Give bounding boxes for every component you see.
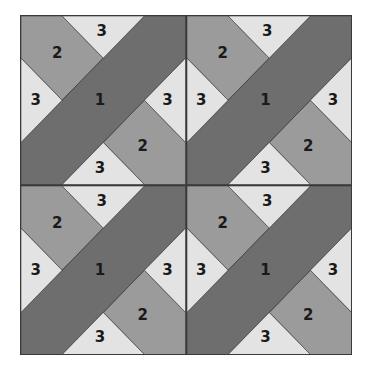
label-piece-3-right: 3: [162, 93, 172, 108]
label-piece-2-top-left: 2: [52, 215, 62, 230]
quilt-block-top-left: 2 3 3 1 3 2 3: [21, 16, 186, 185]
label-piece-1: 1: [260, 262, 270, 277]
quilt-diagram: 2 3 3 1 3 2 3 2 3 3 1 3 2 3: [20, 15, 352, 355]
label-piece-1: 1: [95, 262, 105, 277]
label-piece-3-top: 3: [96, 193, 106, 208]
label-piece-3-left: 3: [31, 93, 41, 108]
label-piece-3-right: 3: [162, 262, 172, 277]
label-piece-3-left: 3: [31, 262, 41, 277]
label-piece-2-top-left: 2: [217, 46, 227, 61]
label-piece-1: 1: [95, 93, 105, 108]
label-piece-3-right: 3: [328, 93, 338, 108]
label-piece-1: 1: [260, 93, 270, 108]
label-piece-2-top-left: 2: [217, 215, 227, 230]
label-piece-2-bottom-right: 2: [303, 138, 313, 153]
label-piece-3-bottom: 3: [95, 160, 105, 175]
label-piece-3-right: 3: [328, 262, 338, 277]
label-piece-2-top-left: 2: [52, 46, 62, 61]
label-piece-3-top: 3: [262, 193, 272, 208]
label-piece-3-bottom: 3: [260, 160, 270, 175]
label-piece-3-bottom: 3: [260, 330, 270, 345]
label-piece-3-left: 3: [196, 262, 206, 277]
quilt-block-bottom-right: 2 3 3 1 3 2 3: [187, 186, 352, 355]
label-piece-2-bottom-right: 2: [138, 308, 148, 323]
label-piece-3-left: 3: [196, 93, 206, 108]
label-piece-3-top: 3: [262, 24, 272, 39]
quilt-block-bottom-left: 2 3 3 1 3 2 3: [21, 186, 186, 355]
label-piece-3-top: 3: [96, 24, 106, 39]
label-piece-3-bottom: 3: [95, 330, 105, 345]
quilt-block-top-right: 2 3 3 1 3 2 3: [187, 16, 352, 185]
label-piece-2-bottom-right: 2: [303, 308, 313, 323]
label-piece-2-bottom-right: 2: [138, 138, 148, 153]
